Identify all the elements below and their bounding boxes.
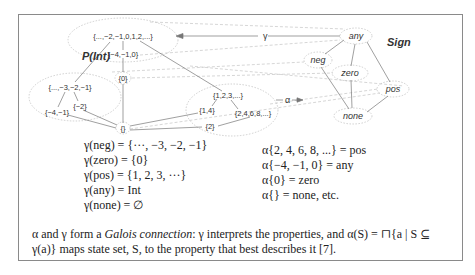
sign-node-zero: zero (340, 68, 359, 78)
node-1-4: {1,4} (199, 106, 215, 115)
sign-node-neg: neg (310, 55, 325, 65)
powerset-label: P(Int) (82, 50, 110, 62)
node-all-integers: {...,−2,−1,0,1,2,...} (93, 32, 153, 41)
gamma-arrow-label: γ (263, 31, 268, 41)
node-zero-set: {0} (118, 74, 128, 83)
node-empty-set: {} (120, 124, 126, 133)
sign-node-none: none (343, 111, 363, 121)
node-m4-m1: {−4,−1} (45, 108, 70, 117)
alpha-arrow-label: α (285, 95, 290, 105)
node-evens: {2,4,6,8,...} (235, 109, 272, 118)
gamma-eq-neg: γ(neg) = {···, −3, −2, −1} (84, 138, 207, 153)
alpha-equations: α{2, 4, 6, 8, ...} = pos α{−4, −1, 0} = … (262, 143, 366, 203)
figure-caption: α and γ form a Galois connection: γ inte… (32, 227, 457, 257)
alpha-eq-evens: α{2, 4, 6, 8, ...} = pos (262, 143, 366, 158)
sign-node-any: any (349, 31, 364, 41)
node-positives: {1,2,3,...} (213, 91, 244, 100)
node-m2: {−2} (73, 102, 87, 111)
alpha-eq-empty: α{} = none, etc. (262, 188, 366, 203)
gamma-equations: γ(neg) = {···, −3, −2, −1} γ(zero) = {0}… (84, 138, 207, 213)
node-2: {2} (205, 122, 215, 131)
sign-label: Sign (387, 36, 411, 48)
gamma-eq-zero: γ(zero) = {0} (84, 153, 207, 168)
node-m4-m1-0: {−4,−1,0} (108, 50, 139, 59)
node-negatives: {...,−3,−2,−1} (48, 83, 92, 92)
sign-node-pos: pos (385, 84, 401, 94)
galois-connection-term: Galois connection (105, 227, 193, 241)
alpha-eq-m4-m1-0: α{−4, −1, 0} = any (262, 158, 366, 173)
ellipse-negatives (29, 73, 121, 121)
gamma-eq-none: γ(none) = ∅ (84, 198, 207, 213)
gamma-eq-pos: γ(pos) = {1, 2, 3, ···} (84, 168, 207, 183)
alpha-eq-zero: α{0} = zero (262, 173, 366, 188)
gamma-eq-any: γ(any) = Int (84, 183, 207, 198)
